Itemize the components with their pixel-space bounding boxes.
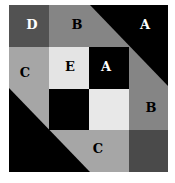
region-dark-corner (129, 130, 168, 172)
label-B-right: B (146, 100, 157, 115)
label-D: D (26, 17, 37, 32)
region-black-center-left (49, 89, 89, 130)
quilt-svg: D B A C E A B C (0, 0, 175, 183)
label-C-left: C (20, 65, 30, 80)
label-C-bottom: C (93, 141, 103, 156)
label-A-center: A (100, 59, 112, 74)
label-A-top: A (139, 17, 151, 32)
region-light-center-right (89, 89, 129, 130)
quilt-diagram: D B A C E A B C (0, 0, 175, 183)
label-B-top: B (72, 17, 83, 32)
label-E: E (65, 59, 75, 74)
